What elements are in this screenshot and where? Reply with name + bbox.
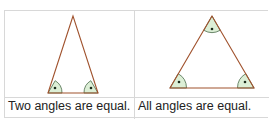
angle-dot xyxy=(90,87,93,90)
angle-dot xyxy=(244,81,247,84)
angle-dot xyxy=(211,28,214,31)
isosceles-triangle xyxy=(48,16,98,93)
angle-mark-left xyxy=(170,74,187,88)
angle-dot xyxy=(178,81,181,84)
angle-dot xyxy=(54,87,57,90)
equilateral-triangle xyxy=(170,16,254,88)
angle-mark-right xyxy=(238,74,255,88)
triangles-diagram xyxy=(0,0,269,119)
